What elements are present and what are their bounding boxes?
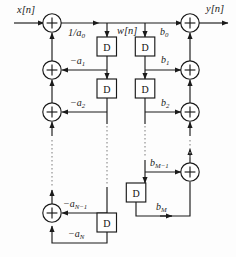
label-b1-sub: 1 [166, 59, 169, 66]
delay-label-b2: D [141, 84, 148, 95]
delay-label-b1: D [141, 42, 148, 53]
label-a1-base: −a [70, 55, 82, 66]
label-aN-base: −a [68, 228, 80, 239]
label-input-gain-sub: 0 [81, 32, 85, 40]
label-b0-sub: 0 [165, 31, 168, 38]
ellipsis-group [52, 126, 190, 186]
label-coef-minus-aN: −aN [68, 229, 84, 241]
label-a2-sub: 2 [82, 102, 85, 109]
signal-flow-diagram: D D D D D D x[n] y[n] w[n] 1/a0 b0 b1 b2… [0, 0, 236, 257]
delay-blocks-feedforward: D D D [126, 37, 155, 202]
label-coef-minus-a-N-minus-1: −aN−1 [63, 199, 87, 211]
label-coef-minus-a2: −a2 [70, 98, 85, 110]
label-coef-b0: b0 [160, 27, 168, 39]
label-input-gain-base: 1/a [68, 27, 81, 38]
label-aN1-base: −a [63, 198, 75, 209]
delay-label-a2: D [103, 84, 110, 95]
label-bM-sub: M [161, 206, 167, 213]
delay-label-aN: D [103, 218, 110, 229]
label-coef-bM: bM [156, 202, 167, 214]
label-a1-sub: 1 [82, 60, 85, 67]
label-coef-b2: b2 [161, 98, 169, 110]
label-coef-minus-a1: −a1 [70, 56, 85, 68]
delay-label-bM: D [132, 188, 139, 199]
delay-label-a1: D [103, 42, 110, 53]
label-input-signal: x[n] [17, 5, 35, 16]
label-aN-sub: N [80, 233, 85, 240]
label-b2-sub: 2 [166, 102, 169, 109]
label-a2-base: −a [70, 97, 82, 108]
label-bM1-sub: M−1 [155, 162, 169, 169]
label-intermediate-signal: w[n] [117, 26, 137, 37]
label-coef-b1: b1 [161, 55, 169, 67]
label-coef-bM-minus-1: bM−1 [150, 158, 169, 170]
label-output-signal: y[n] [206, 4, 224, 15]
label-aN1-sub: N−1 [75, 203, 88, 210]
label-input-gain: 1/a0 [68, 28, 85, 40]
diagram-wiring: D D D D D D [0, 0, 236, 257]
